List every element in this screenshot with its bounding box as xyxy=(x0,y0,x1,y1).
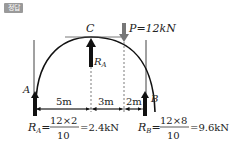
dim-2m: 2m xyxy=(126,96,142,107)
load-arrow-icon xyxy=(119,23,129,42)
arch-diagram: P=12kN RA C A B 5m 3m 2m RA= 12×2 10 =2.… xyxy=(0,0,245,145)
svg-text:10: 10 xyxy=(57,130,70,141)
point-b-label: B xyxy=(150,93,158,104)
svg-text:12×2: 12×2 xyxy=(50,115,77,126)
svg-text:12×8: 12×8 xyxy=(160,115,187,126)
svg-text:RA=: RA= xyxy=(27,121,51,135)
reaction-mid-label: RA xyxy=(93,56,107,69)
svg-text:=9.6kN: =9.6kN xyxy=(190,122,229,133)
point-a-label: A xyxy=(22,84,30,95)
load-label: P=12kN xyxy=(128,22,176,35)
svg-text:RB=: RB= xyxy=(137,121,161,135)
point-c-label: C xyxy=(86,22,95,35)
equation-rb: RB= 12×8 10 =9.6kN xyxy=(137,115,229,141)
support-b-arrow-icon xyxy=(141,91,149,116)
dim-5m: 5m xyxy=(56,96,72,107)
svg-text:=2.4kN: =2.4kN xyxy=(80,122,119,133)
svg-text:10: 10 xyxy=(167,130,180,141)
dim-3m: 3m xyxy=(98,96,114,107)
support-a-arrow-icon xyxy=(31,91,39,116)
equation-ra: RA= 12×2 10 =2.4kN xyxy=(27,115,119,141)
